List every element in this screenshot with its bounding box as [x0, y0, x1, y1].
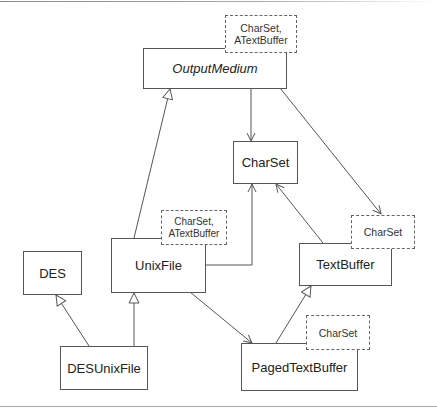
- class-name: UnixFile: [135, 258, 182, 273]
- class-paged-text-buffer: PagedTextBuffer: [241, 343, 358, 391]
- class-name: DESUnixFile: [67, 361, 141, 376]
- class-name: PagedTextBuffer: [252, 360, 348, 375]
- class-charset: CharSet: [233, 141, 298, 184]
- class-text-buffer: TextBuffer: [299, 243, 392, 286]
- class-name: OutputMedium: [172, 61, 257, 76]
- template-params-paged-text-buffer: CharSet: [306, 315, 370, 350]
- class-des: DES: [23, 251, 82, 295]
- class-name: CharSet: [242, 155, 290, 170]
- class-diagram: OutputMedium CharSet, ATextBuffer CharSe…: [0, 0, 437, 411]
- edge-textbuffer-charset: [276, 184, 323, 243]
- template-params-output-medium: CharSet, ATextBuffer: [225, 15, 297, 53]
- edge-unixfile-pagedtextbuffer: [190, 292, 252, 343]
- class-unix-file: UnixFile: [111, 238, 206, 293]
- class-output-medium: OutputMedium: [143, 48, 287, 89]
- class-name: DES: [39, 266, 66, 281]
- class-des-unix-file: DESUnixFile: [60, 346, 148, 390]
- template-params-text-buffer: CharSet: [351, 215, 415, 249]
- edge-desunixfile-des: [56, 295, 89, 346]
- class-name: TextBuffer: [316, 257, 374, 272]
- template-params-unix-file: CharSet, ATextBuffer: [161, 210, 227, 245]
